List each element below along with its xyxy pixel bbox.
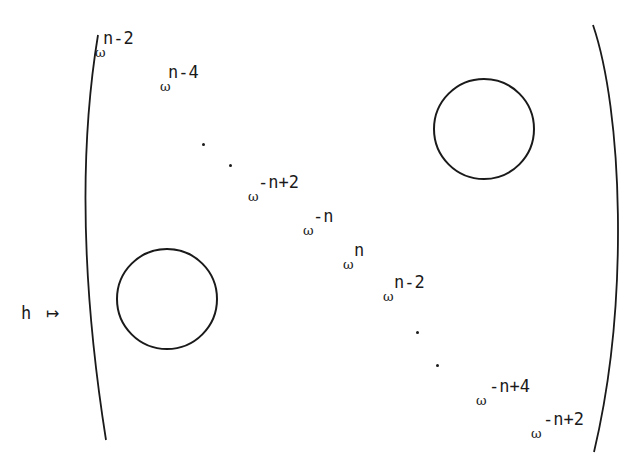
right-parenthesis bbox=[593, 25, 618, 452]
omega-symbol: ω bbox=[343, 258, 354, 271]
exponent: -n bbox=[313, 208, 333, 225]
left-parenthesis bbox=[86, 35, 107, 440]
zero-block-upper-right bbox=[434, 79, 534, 179]
omega-symbol: ω bbox=[476, 394, 487, 407]
exponent: n-2 bbox=[394, 274, 425, 291]
matrix-brackets-and-blocks bbox=[0, 0, 636, 468]
omega-symbol: ω bbox=[531, 427, 542, 440]
ellipsis-dot bbox=[416, 331, 419, 334]
exponent: -n+2 bbox=[543, 411, 584, 428]
maps-to-arrow-icon: ↦ bbox=[46, 304, 59, 323]
exponent: -n+4 bbox=[489, 378, 530, 395]
matrix-figure: h ↦ ω n-2 ω n-4 ω -n+2 ω -n ω n ω n-2 ω … bbox=[0, 0, 636, 468]
exponent: n-2 bbox=[103, 30, 134, 47]
exponent: n-4 bbox=[168, 64, 199, 81]
ellipsis-dot bbox=[436, 364, 439, 367]
zero-block-lower-left bbox=[117, 249, 217, 349]
map-label-h: h bbox=[21, 303, 31, 323]
omega-symbol: ω bbox=[383, 290, 394, 303]
ellipsis-dot bbox=[202, 143, 205, 146]
ellipsis-dot bbox=[229, 164, 232, 167]
exponent: n bbox=[354, 242, 364, 259]
exponent: -n+2 bbox=[258, 174, 299, 191]
